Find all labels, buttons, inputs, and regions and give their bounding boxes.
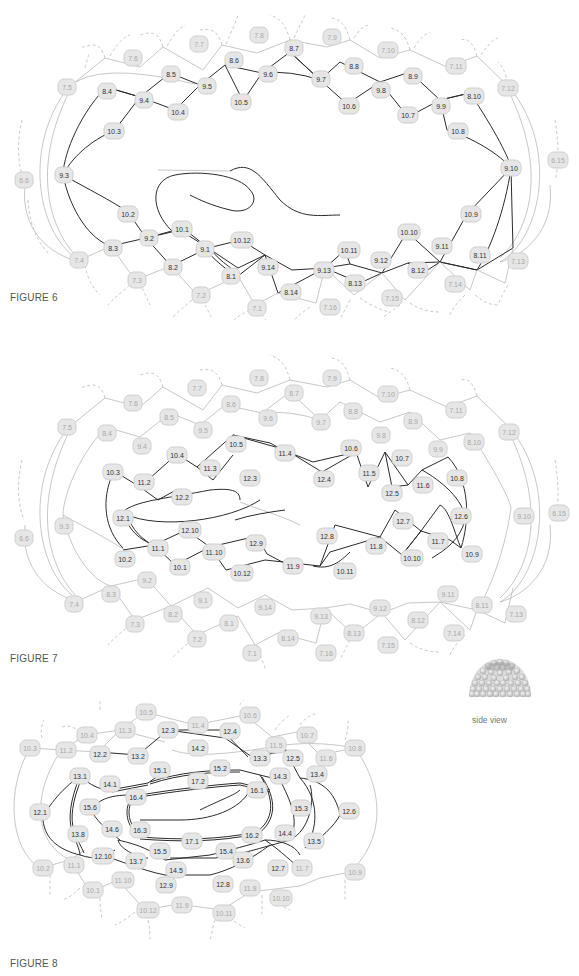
node-10-1: 10.1 bbox=[172, 221, 192, 237]
node-7-14: 7.14 bbox=[445, 276, 465, 292]
svg-text:11.5: 11.5 bbox=[269, 742, 282, 749]
node-7-16: 7.16 bbox=[316, 645, 336, 661]
svg-text:10.12: 10.12 bbox=[233, 570, 251, 577]
svg-text:14.3: 14.3 bbox=[273, 773, 287, 780]
figure-8-caption: FIGURE 8 bbox=[10, 958, 58, 969]
node-10-9: 10.9 bbox=[462, 546, 482, 562]
svg-text:7.16: 7.16 bbox=[319, 650, 333, 657]
svg-text:7.4: 7.4 bbox=[74, 257, 84, 264]
svg-text:7.10: 7.10 bbox=[381, 391, 395, 398]
node-14-2: 14.2 bbox=[188, 740, 208, 756]
svg-text:10.1: 10.1 bbox=[175, 226, 189, 233]
node-12-8: 12.8 bbox=[213, 876, 233, 892]
svg-text:10.9: 10.9 bbox=[464, 211, 478, 218]
svg-text:9.9: 9.9 bbox=[436, 103, 446, 110]
figure-8-diagram: 10.3 10.4 10.5 11.2 11.3 11.4 10.6 11.5 … bbox=[0, 700, 579, 960]
node-14-1: 14.1 bbox=[100, 776, 120, 792]
node-7-1: 7.1 bbox=[248, 300, 266, 316]
svg-text:8.8: 8.8 bbox=[349, 63, 359, 70]
svg-text:9.14: 9.14 bbox=[261, 264, 275, 271]
svg-text:8.12: 8.12 bbox=[411, 617, 425, 624]
svg-text:7.11: 7.11 bbox=[449, 63, 462, 70]
node-7-11: 7.11 bbox=[446, 58, 466, 74]
node-11-3: 11.3 bbox=[200, 460, 220, 476]
node-12-10: 12.10 bbox=[179, 522, 201, 538]
node-10-5: 10.5 bbox=[136, 704, 156, 720]
svg-text:6.6: 6.6 bbox=[19, 535, 29, 542]
svg-text:16.2: 16.2 bbox=[245, 832, 259, 839]
node-8-4: 8.4 bbox=[98, 83, 116, 99]
node-9-10: 9.10 bbox=[501, 160, 521, 176]
node-14-3: 14.3 bbox=[270, 768, 290, 784]
svg-text:7.5: 7.5 bbox=[62, 424, 72, 431]
svg-text:9.10: 9.10 bbox=[504, 165, 518, 172]
svg-text:7.10: 7.10 bbox=[381, 47, 395, 54]
node-13-4: 13.4 bbox=[307, 766, 327, 782]
node-15-3: 15.3 bbox=[291, 800, 311, 816]
node-15-5: 15.5 bbox=[150, 843, 170, 859]
svg-text:15.2: 15.2 bbox=[213, 765, 227, 772]
node-11-4: 11.4 bbox=[188, 717, 208, 733]
node-8-10: 8.10 bbox=[464, 88, 484, 104]
node-15-1: 15.1 bbox=[150, 762, 170, 778]
node-11-8: 11.8 bbox=[366, 538, 386, 554]
svg-text:8.2: 8.2 bbox=[168, 611, 178, 618]
node-12-2: 12.2 bbox=[90, 746, 110, 762]
node-8-3: 8.3 bbox=[104, 240, 122, 256]
node-14-6: 14.6 bbox=[102, 821, 122, 837]
node-8-5: 8.5 bbox=[160, 409, 178, 425]
node-12-5: 12.5 bbox=[283, 750, 303, 766]
node-6-15: 6.15 bbox=[549, 505, 569, 521]
figure-6-caption: FIGURE 6 bbox=[10, 292, 58, 303]
svg-text:7.8: 7.8 bbox=[254, 375, 264, 382]
node-11-8: 11.8 bbox=[240, 880, 260, 896]
node-10-2: 10.2 bbox=[33, 860, 53, 876]
node-15-2: 15.2 bbox=[210, 760, 230, 776]
svg-text:15.4: 15.4 bbox=[219, 848, 233, 855]
node-8-9: 8.9 bbox=[404, 68, 422, 84]
svg-text:10.7: 10.7 bbox=[300, 732, 314, 739]
node-9-8: 9.8 bbox=[372, 427, 390, 443]
node-12-4: 12.4 bbox=[314, 471, 334, 487]
node-8-10: 8.10 bbox=[464, 434, 484, 450]
node-13-1: 13.1 bbox=[70, 768, 90, 784]
node-9-11: 9.11 bbox=[438, 586, 458, 602]
svg-text:17.2: 17.2 bbox=[191, 778, 205, 785]
svg-text:10.4: 10.4 bbox=[170, 452, 184, 459]
svg-text:9.5: 9.5 bbox=[198, 427, 208, 434]
svg-text:8.4: 8.4 bbox=[102, 88, 112, 95]
node-10-2: 10.2 bbox=[115, 551, 135, 567]
node-12-4: 12.4 bbox=[220, 723, 240, 739]
node-7-8: 7.8 bbox=[250, 27, 268, 43]
node-10-11: 10.11 bbox=[334, 563, 356, 579]
node-10-7: 10.7 bbox=[297, 727, 317, 743]
node-8-1: 8.1 bbox=[220, 615, 238, 631]
svg-text:14.5: 14.5 bbox=[169, 867, 183, 874]
node-7-3: 7.3 bbox=[126, 616, 144, 632]
svg-text:11.6: 11.6 bbox=[416, 482, 429, 489]
svg-text:12.10: 12.10 bbox=[181, 527, 199, 534]
svg-text:16.4: 16.4 bbox=[129, 794, 143, 801]
node-7-13: 7.13 bbox=[506, 606, 526, 622]
node-8-2: 8.2 bbox=[164, 259, 182, 275]
node-10-11: 10.11 bbox=[338, 242, 360, 258]
node-10-10: 10.10 bbox=[398, 224, 420, 240]
node-8-8: 8.8 bbox=[345, 58, 363, 74]
figure-7-diagram: 7.5 7.6 7.7 7.8 7.9 7.10 7.11 7.12 8.4 8… bbox=[0, 340, 579, 680]
svg-text:7.1: 7.1 bbox=[247, 650, 257, 657]
svg-text:8.10: 8.10 bbox=[467, 439, 481, 446]
svg-text:9.12: 9.12 bbox=[374, 257, 388, 264]
node-8-8: 8.8 bbox=[344, 403, 362, 419]
node-7-16: 7.16 bbox=[320, 299, 340, 315]
svg-text:14.6: 14.6 bbox=[105, 826, 119, 833]
svg-text:10.11: 10.11 bbox=[216, 910, 233, 917]
node-10-10: 10.10 bbox=[401, 550, 423, 566]
svg-text:8.10: 8.10 bbox=[467, 93, 481, 100]
node-9-3: 9.3 bbox=[55, 167, 73, 183]
node-12-1: 12.1 bbox=[113, 510, 133, 526]
node-13-3: 13.3 bbox=[250, 750, 270, 766]
svg-text:12.2: 12.2 bbox=[93, 751, 107, 758]
figure-7-caption: FIGURE 7 bbox=[10, 653, 58, 664]
svg-text:10.6: 10.6 bbox=[342, 103, 356, 110]
node-6-6: 6.6 bbox=[15, 530, 33, 546]
